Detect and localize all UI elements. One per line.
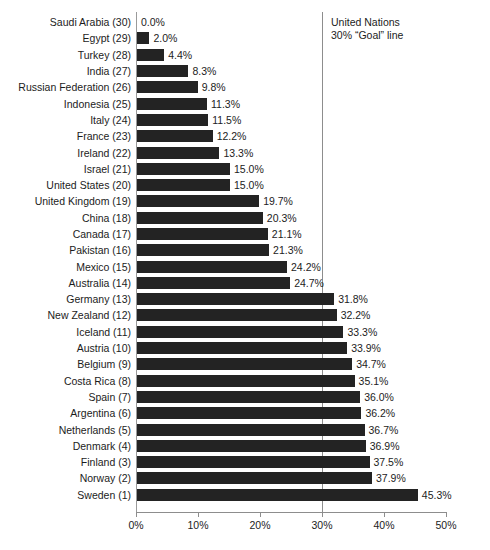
- bar-row: France (23)12.2%: [0, 128, 490, 144]
- value-label: 15.0%: [234, 163, 264, 175]
- bar: [137, 293, 334, 305]
- value-label: 37.9%: [376, 472, 406, 484]
- bar-row: Mexico (15)24.2%: [0, 258, 490, 274]
- value-label: 0.0%: [141, 16, 165, 28]
- bar-and-value: 21.3%: [137, 242, 303, 258]
- bar: [137, 489, 418, 501]
- category-label: Canada (17): [0, 228, 131, 240]
- bar: [137, 375, 355, 387]
- category-label: Ireland (22): [0, 147, 131, 159]
- value-label: 21.1%: [272, 228, 302, 240]
- value-label: 11.5%: [212, 114, 241, 126]
- bar: [137, 440, 366, 452]
- bar-and-value: 9.8%: [137, 79, 226, 95]
- value-label: 11.3%: [211, 98, 240, 110]
- value-label: 33.9%: [351, 342, 381, 354]
- bar: [137, 163, 230, 175]
- value-label: 20.3%: [267, 212, 297, 224]
- bar-and-value: 4.4%: [137, 47, 192, 63]
- category-label: Denmark (4): [0, 440, 131, 452]
- value-label: 21.3%: [273, 244, 303, 256]
- value-label: 45.3%: [422, 489, 452, 501]
- category-label: India (27): [0, 65, 131, 77]
- value-label: 24.7%: [294, 277, 324, 289]
- bar: [137, 212, 263, 224]
- bar-and-value: 21.1%: [137, 226, 302, 242]
- category-label: Russian Federation (26): [0, 81, 131, 93]
- bar-and-value: 33.9%: [137, 340, 381, 356]
- category-label: Saudi Arabia (30): [0, 16, 131, 28]
- bar-row: Austria (10)33.9%: [0, 340, 490, 356]
- value-label: 19.7%: [263, 195, 293, 207]
- category-label: Egypt (29): [0, 32, 131, 44]
- value-label: 15.0%: [234, 179, 264, 191]
- category-label: Turkey (28): [0, 49, 131, 61]
- bar-row: India (27)8.3%: [0, 63, 490, 79]
- bar-row: Italy (24)11.5%: [0, 112, 490, 128]
- bar: [137, 49, 164, 61]
- bar-and-value: 20.3%: [137, 210, 297, 226]
- bar-and-value: 11.3%: [137, 95, 240, 111]
- category-label: Finland (3): [0, 456, 131, 468]
- value-label: 8.3%: [192, 65, 216, 77]
- bar: [137, 130, 213, 142]
- x-axis-tick-label: 50%: [435, 519, 456, 531]
- category-label: Spain (7): [0, 391, 131, 403]
- goal-annotation-line1: United Nations: [331, 16, 403, 29]
- bar-row: Netherlands (5)36.7%: [0, 421, 490, 437]
- x-axis-line: [136, 512, 446, 513]
- category-label: Iceland (11): [0, 326, 131, 338]
- bar-row: Canada (17)21.1%: [0, 226, 490, 242]
- category-label: Australia (14): [0, 277, 131, 289]
- value-label: 36.0%: [364, 391, 394, 403]
- bar: [137, 391, 360, 403]
- bar: [137, 342, 347, 354]
- bar-row: Belgium (9)34.7%: [0, 356, 490, 372]
- bar-row: Russian Federation (26)9.8%: [0, 79, 490, 95]
- bar-row: Indonesia (25)11.3%: [0, 95, 490, 111]
- category-label: Mexico (15): [0, 261, 131, 273]
- bar-row: Egypt (29)2.0%: [0, 30, 490, 46]
- bar-row: Norway (2)37.9%: [0, 470, 490, 486]
- bar-row: Sweden (1)45.3%: [0, 487, 490, 503]
- bar: [137, 195, 259, 207]
- category-label: United States (20): [0, 179, 131, 191]
- value-label: 32.2%: [341, 309, 371, 321]
- bar: [137, 424, 365, 436]
- bar-and-value: 36.9%: [137, 438, 400, 454]
- bar-and-value: 19.7%: [137, 193, 293, 209]
- category-label: Italy (24): [0, 114, 131, 126]
- category-label: Netherlands (5): [0, 424, 131, 436]
- bar-and-value: 13.3%: [137, 144, 253, 160]
- bar-and-value: 24.7%: [137, 275, 324, 291]
- bar-row: Pakistan (16)21.3%: [0, 242, 490, 258]
- category-label: Costa Rica (8): [0, 375, 131, 387]
- x-axis-tick: [260, 512, 261, 517]
- category-label: China (18): [0, 212, 131, 224]
- x-axis-tick: [198, 512, 199, 517]
- bar-rows: Saudi Arabia (30)0.0%Egypt (29)2.0%Turke…: [0, 14, 490, 503]
- category-label: Pakistan (16): [0, 244, 131, 256]
- category-label: France (23): [0, 130, 131, 142]
- bar-and-value: 36.0%: [137, 389, 394, 405]
- bar-and-value: 32.2%: [137, 307, 370, 323]
- bar: [137, 407, 361, 419]
- bar-row: Denmark (4)36.9%: [0, 438, 490, 454]
- bar-chart: Saudi Arabia (30)0.0%Egypt (29)2.0%Turke…: [0, 0, 490, 550]
- bar: [137, 326, 343, 338]
- bar: [137, 65, 188, 77]
- bar-row: United States (20)15.0%: [0, 177, 490, 193]
- value-label: 9.8%: [202, 81, 226, 93]
- category-label: Austria (10): [0, 342, 131, 354]
- bar: [137, 261, 287, 273]
- bar-and-value: 2.0%: [137, 30, 177, 46]
- bar-row: Ireland (22)13.3%: [0, 144, 490, 160]
- category-label: United Kingdom (19): [0, 195, 131, 207]
- bar-and-value: 36.2%: [137, 405, 395, 421]
- category-label: Belgium (9): [0, 358, 131, 370]
- bar-and-value: 33.3%: [137, 324, 377, 340]
- bar-row: Australia (14)24.7%: [0, 275, 490, 291]
- bar-and-value: 34.7%: [137, 356, 386, 372]
- bar: [137, 244, 269, 256]
- x-axis-tick: [322, 512, 323, 517]
